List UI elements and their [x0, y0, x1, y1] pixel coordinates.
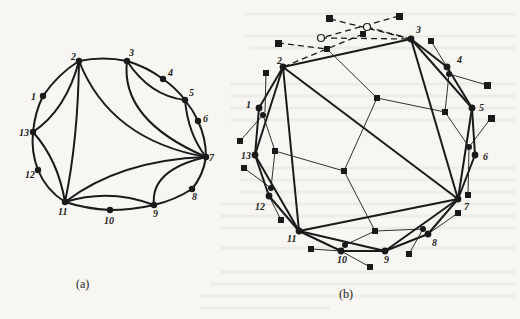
panel-a-vertex-12	[35, 167, 41, 173]
panel-a-vertex-2	[76, 58, 82, 64]
panel-a-vertex-label-7: 7	[209, 152, 215, 163]
panel-a-caption: (a)	[76, 277, 89, 291]
panel-a-vertex-label-1: 1	[31, 91, 36, 102]
panel-a-vertex-label-5: 5	[189, 87, 194, 98]
panel-a-vertex-label-9: 9	[153, 208, 158, 219]
panel-b-vertex-label-12: 12	[255, 201, 265, 212]
panel-b-vertex-label-5: 5	[479, 102, 484, 113]
panel-a-vertex-4	[160, 76, 166, 82]
panel-a-vertex-10	[107, 207, 113, 213]
panel-a-vertex-label-13: 13	[19, 127, 29, 138]
panel-b-vertex-13	[252, 152, 259, 159]
panel-b-face-nodes	[237, 13, 495, 270]
panel-a-vertex-1	[40, 93, 46, 99]
panel-b-vertex-4	[444, 64, 451, 71]
panel-b-vertex-7	[455, 196, 462, 203]
panel-b-thick-edges	[255, 39, 475, 251]
panel-b-vertex-5	[469, 105, 476, 112]
panel-b-caption: (b)	[339, 287, 353, 301]
panel-b-vertex-label-1: 1	[246, 99, 251, 110]
panel-b-vertex-label-6: 6	[483, 151, 488, 162]
panel-a-vertex-label-12: 12	[25, 169, 35, 180]
panel-b-vertex-label-2: 2	[276, 55, 282, 66]
panel-a-vertex-5	[182, 97, 188, 103]
panel-b-vertex-12	[266, 193, 273, 200]
panel-b-vertex-3	[408, 36, 415, 43]
panel-a-vertex-label-8: 8	[192, 191, 197, 202]
panel-b-vertex-label-11: 11	[287, 233, 296, 244]
panel-a-vertex-label-2: 2	[70, 51, 76, 62]
panel-a-outer-cycle	[33, 59, 206, 211]
panel-a-edge-11-9	[65, 196, 154, 205]
panel-b-vertex-1	[256, 105, 263, 112]
panel-a-vertex-11	[62, 199, 68, 205]
panel-b-vertex-label-3: 3	[415, 24, 421, 35]
panel-a-vertex-13	[30, 129, 36, 135]
panel-a-vertex-label-6: 6	[203, 113, 208, 124]
panel-a-edge-3-5	[127, 61, 185, 100]
panel-b-vertex-8	[425, 231, 432, 238]
panel-a-vertex-label-11: 11	[58, 206, 67, 217]
panel-b-vertex-label-4: 4	[456, 54, 462, 65]
panel-a-vertex-3	[124, 58, 130, 64]
panel-b-vertex-label-10: 10	[337, 254, 347, 265]
panel-a-vertex-label-10: 10	[104, 215, 114, 226]
panel-a	[33, 59, 206, 211]
figure-canvas: 12345678910111213 (a)	[0, 0, 520, 319]
panel-a-vertex-6	[195, 118, 201, 124]
panel-b-vertex-6	[472, 152, 479, 159]
panel-a-vertex-label-3: 3	[128, 47, 134, 58]
panel-a-vertex-label-4: 4	[167, 67, 173, 78]
background-text-bleed	[200, 14, 515, 308]
panel-b-vertex-label-13: 13	[241, 150, 251, 161]
panel-a-nodes: 12345678910111213	[19, 47, 215, 226]
panel-b-vertex-label-9: 9	[384, 254, 389, 265]
panel-b-vertex-11	[296, 228, 303, 235]
panel-b-vertex-label-8: 8	[432, 237, 437, 248]
panel-b-dashed-edges	[278, 16, 411, 67]
